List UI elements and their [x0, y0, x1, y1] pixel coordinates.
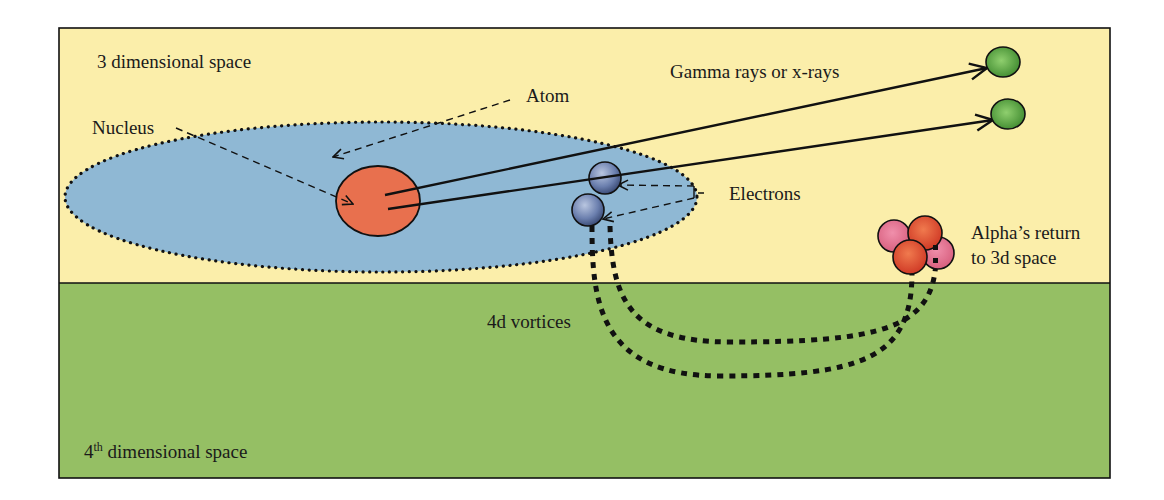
photon-1 [986, 47, 1020, 77]
label-4d-space-sup: th [94, 440, 103, 454]
label-nucleus: Nucleus [92, 117, 154, 138]
label-atom: Atom [526, 85, 570, 106]
atom-diagram: 3 dimensional space Nucleus Atom Gamma r… [0, 0, 1164, 500]
label-4d-vortices: 4d vortices [487, 311, 571, 332]
label-3d-space: 3 dimensional space [97, 51, 251, 72]
alpha-neutron-red-bottom [893, 240, 927, 274]
label-alpha-line1: Alpha’s return [971, 222, 1081, 243]
vortex-dot [933, 245, 938, 250]
label-4d-space-suffix: dimensional space [103, 441, 248, 462]
vortex-dot [933, 258, 938, 263]
photon-2 [991, 99, 1025, 129]
label-4d-space-prefix: 4 [84, 441, 94, 462]
nucleus [336, 166, 420, 236]
label-electrons: Electrons [729, 183, 801, 204]
electron-2 [572, 194, 604, 226]
label-gamma-rays: Gamma rays or x-rays [670, 61, 839, 82]
label-4d-space: 4th dimensional space [84, 440, 247, 462]
label-alpha-line2: to 3d space [971, 247, 1056, 268]
